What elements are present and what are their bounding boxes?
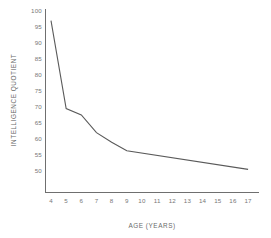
chart-canvas: 100 95 90 85 80 75 70 65 60 55 50 4 5 6 … — [0, 0, 271, 238]
y-axis-title: INTELLIGENCE QUOTIENT — [10, 54, 18, 147]
x-tick-label: 8 — [110, 197, 114, 204]
iq-vs-age-line-chart: 100 95 90 85 80 75 70 65 60 55 50 4 5 6 … — [0, 0, 271, 238]
x-tick-label: 10 — [138, 197, 146, 204]
y-tick-label: 55 — [35, 151, 43, 158]
x-tick-label: 12 — [169, 197, 177, 204]
x-tick-label: 16 — [229, 197, 237, 204]
y-tick-label: 50 — [35, 167, 43, 174]
y-tick-label: 75 — [35, 87, 43, 94]
y-tick-label: 100 — [31, 7, 42, 14]
x-axis-title: AGE (YEARS) — [128, 222, 175, 230]
x-tick-label: 11 — [154, 197, 161, 204]
y-tick-label: 65 — [35, 119, 43, 126]
y-tick-label: 95 — [35, 23, 43, 30]
x-tick-label: 17 — [244, 197, 252, 204]
y-axis-tick-labels: 100 95 90 85 80 75 70 65 60 55 50 — [31, 7, 42, 174]
x-tick-label: 4 — [49, 197, 53, 204]
y-tick-label: 85 — [35, 55, 43, 62]
y-tick-label: 80 — [35, 71, 43, 78]
x-tick-label: 14 — [199, 197, 207, 204]
data-series-line — [51, 21, 248, 170]
x-tick-label: 6 — [80, 197, 84, 204]
y-tick-label: 70 — [35, 103, 43, 110]
x-tick-label: 9 — [125, 197, 129, 204]
x-tick-label: 7 — [95, 197, 99, 204]
y-tick-label: 60 — [35, 135, 43, 142]
x-tick-label: 13 — [184, 197, 192, 204]
x-tick-label: 15 — [214, 197, 222, 204]
x-tick-label: 5 — [64, 197, 68, 204]
x-axis-tick-labels: 4 5 6 7 8 9 10 11 12 13 14 15 16 17 — [49, 197, 252, 204]
y-tick-label: 90 — [35, 39, 43, 46]
